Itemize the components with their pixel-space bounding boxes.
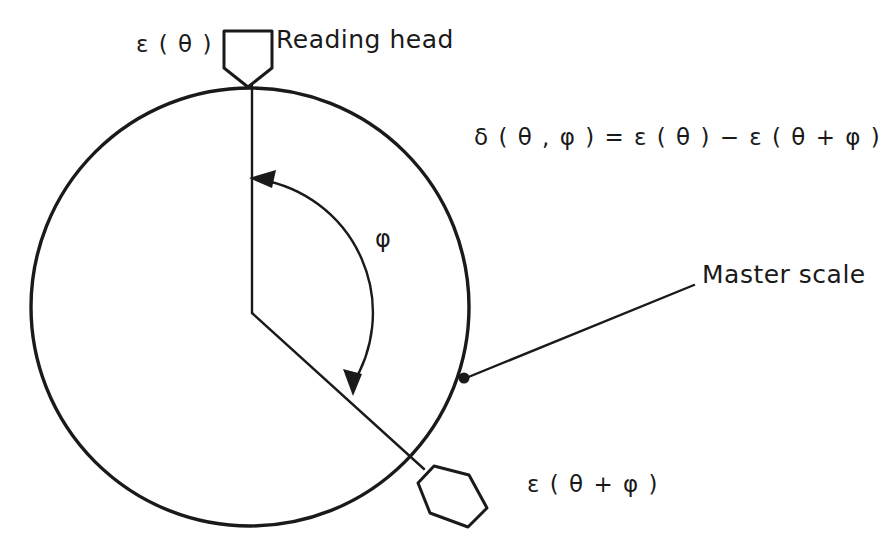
angle-arc-phi — [262, 180, 373, 385]
label-epsilon-theta: ε ( θ ) — [136, 33, 213, 56]
label-reading-head: Reading head — [276, 27, 454, 52]
label-master-scale: Master scale — [702, 262, 866, 287]
master-scale-circle — [31, 88, 469, 526]
diagram-canvas: ε ( θ ) Reading head δ ( θ , φ ) = ε ( θ… — [0, 0, 896, 545]
label-epsilon-theta-plus-phi: ε ( θ + φ ) — [527, 473, 659, 496]
reading-head-top-shape — [224, 31, 272, 87]
label-phi-angle: φ — [375, 227, 391, 251]
label-delta-equation: δ ( θ , φ ) = ε ( θ ) − ε ( θ + φ ) — [474, 126, 881, 149]
master-scale-marker-dot — [459, 373, 470, 384]
master-scale-leader-line — [466, 285, 694, 378]
reading-head-bottom-shape — [418, 466, 487, 527]
radius-line-lower — [252, 313, 424, 469]
